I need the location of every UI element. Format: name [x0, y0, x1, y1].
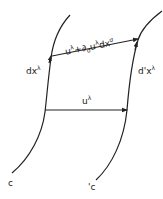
right-curve-label: 'c [88, 182, 95, 192]
right-tangent-label: d'xλ [138, 64, 156, 76]
top-vector-label: uλ+∂σuλdxσ [64, 36, 115, 58]
left-tangent-label: dxλ [26, 64, 41, 76]
bottom-vector-label: uλ [82, 94, 92, 106]
left-curve-c [12, 15, 70, 173]
parallel-transport-diagram: uλ+∂σuλdxσ dxλ d'xλ uλ c 'c [0, 0, 163, 199]
svg-text:uλ+∂σuλdxσ: uλ+∂σuλdxσ [64, 36, 115, 58]
left-curve-label: c [8, 178, 13, 188]
right-curve-c-prime [96, 11, 162, 180]
